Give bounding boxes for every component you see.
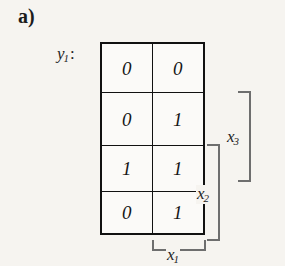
variable-label-x1: x1: [166, 246, 180, 265]
variable-subscript-x2: 2: [204, 192, 210, 204]
variable-subscript-x1: 1: [174, 253, 180, 265]
output-variable-colon: :: [70, 44, 75, 63]
karnaugh-map-figure: a) y1: 00011101 x1 x2 x3: [0, 0, 285, 266]
variable-label-x2: x2: [196, 185, 210, 204]
output-variable-subscript: 1: [64, 52, 70, 64]
kmap-grid: 00011101: [100, 42, 205, 235]
part-label: a): [18, 6, 35, 26]
kmap-cell: 0: [102, 44, 153, 93]
kmap-cell: 0: [153, 44, 204, 93]
kmap-cell: 1: [153, 93, 204, 146]
kmap-cell: 0: [102, 93, 153, 146]
output-variable-label: y1:: [57, 45, 75, 64]
kmap-cell: 0: [102, 192, 153, 233]
kmap-cell: 1: [102, 146, 153, 192]
variable-subscript-x3: 3: [234, 135, 240, 147]
variable-label-x3: x3: [226, 128, 240, 147]
